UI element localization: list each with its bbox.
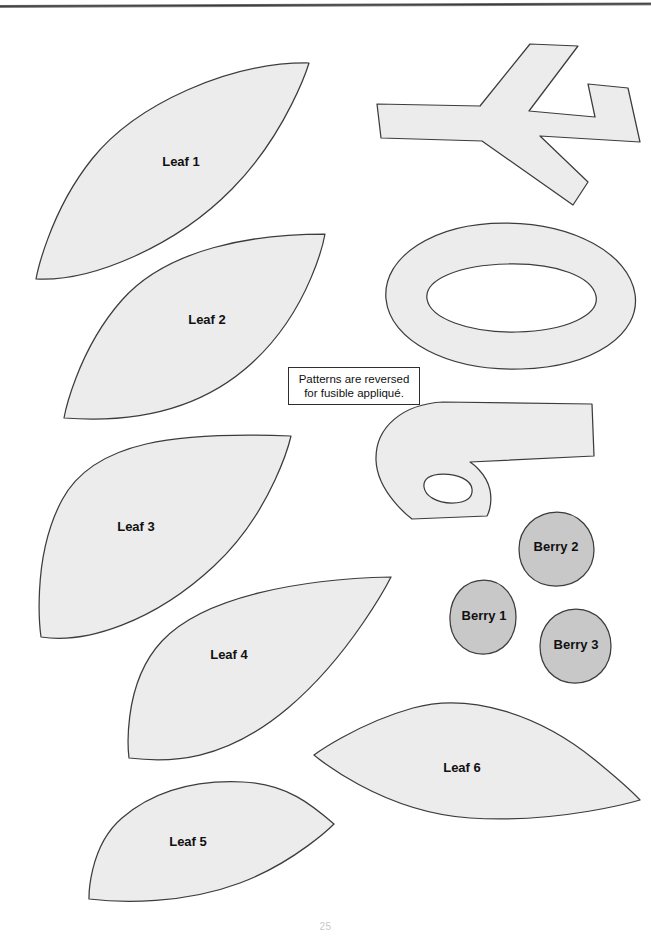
piece-label-leaf-3: Leaf 3 bbox=[117, 519, 155, 534]
piece-label-berry-3: Berry 3 bbox=[554, 637, 599, 652]
pattern-piece-leaf-5 bbox=[89, 782, 334, 902]
note-line-2: for fusible appliqué. bbox=[304, 386, 404, 400]
reversed-pattern-note: Patterns are reversed for fusible appliq… bbox=[288, 367, 420, 405]
pattern-page: Leaf 1Leaf 2Leaf 3Leaf 4Leaf 5Leaf 6Berr… bbox=[0, 0, 651, 938]
page-number: 25 bbox=[0, 921, 651, 930]
piece-label-leaf-6: Leaf 6 bbox=[443, 760, 481, 775]
pattern-piece-stem-hook bbox=[376, 402, 594, 519]
shapes-layer bbox=[36, 44, 640, 901]
piece-label-leaf-4: Leaf 4 bbox=[210, 647, 248, 662]
piece-label-leaf-1: Leaf 1 bbox=[162, 154, 200, 169]
pattern-piece-stem-branch bbox=[377, 44, 640, 205]
piece-label-berry-2: Berry 2 bbox=[534, 539, 579, 554]
pattern-pieces-canvas: Leaf 1Leaf 2Leaf 3Leaf 4Leaf 5Leaf 6Berr… bbox=[0, 0, 651, 938]
note-line-1: Patterns are reversed bbox=[299, 372, 410, 386]
piece-label-leaf-5: Leaf 5 bbox=[169, 834, 207, 849]
pattern-piece-stem-ring bbox=[386, 223, 636, 369]
piece-label-leaf-2: Leaf 2 bbox=[188, 312, 226, 327]
piece-label-berry-1: Berry 1 bbox=[462, 608, 507, 623]
